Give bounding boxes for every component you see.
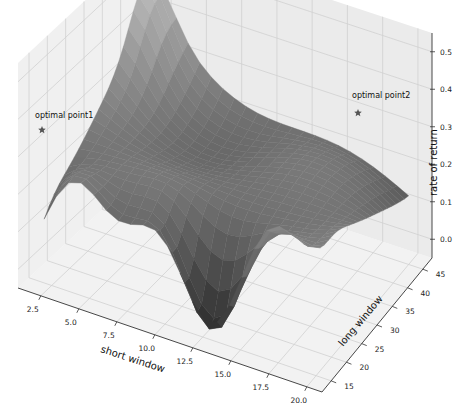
x-tick-label: 20.0 [290,396,307,405]
x-tick-mark [115,322,117,326]
x-tick-label: 7.5 [103,331,115,340]
y-tick-mark [392,306,397,308]
z-tick-label: 0.1 [440,198,452,207]
z-tick-label: 0.5 [440,48,452,57]
z-tick-label: 0.0 [440,235,452,244]
x-tick-mark [39,296,41,300]
y-tick-mark [377,325,382,327]
y-tick-mark [423,269,428,271]
y-tick-mark [331,381,336,383]
y-tick-label: 40 [421,289,431,298]
x-tick-mark [305,387,307,391]
x-tick-label: 15.0 [214,370,231,379]
z-tick-label: 0.3 [440,123,452,132]
y-tick-mark [362,344,367,346]
x-axis-label: short window [99,343,166,374]
annotation-label: optimal point1 [35,111,93,120]
y-tick-mark [346,362,351,364]
surface-chart: 2.55.07.510.012.515.017.520.0 1520253035… [0,0,455,409]
x-tick-mark [267,374,269,378]
x-tick-label: 2.5 [27,305,39,314]
x-tick-mark [191,348,193,352]
y-tick-label: 20 [359,363,369,372]
y-tick-mark [408,288,413,290]
z-tick-label: 0.2 [440,160,452,169]
x-tick-label: 10.0 [138,344,155,353]
x-tick-mark [153,335,155,339]
x-tick-mark [229,361,231,365]
x-tick-label: 12.5 [176,357,193,366]
z-axis-label: rate of return [428,129,439,196]
x-tick-mark [77,309,79,313]
annotation-label: optimal point2 [352,91,410,100]
x-tick-label: 5.0 [65,318,77,327]
y-tick-label: 30 [390,326,400,335]
z-tick-label: 0.4 [440,85,452,94]
y-tick-label: 45 [436,270,446,279]
y-tick-label: 25 [375,345,385,354]
y-tick-label: 35 [405,307,415,316]
y-tick-label: 15 [344,382,354,391]
x-tick-label: 17.5 [252,383,269,392]
